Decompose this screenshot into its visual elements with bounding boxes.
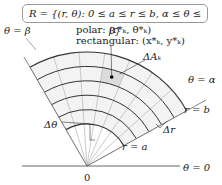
label-origin: 0 — [84, 172, 90, 183]
label-theta-zero: θ = 0 — [183, 162, 210, 173]
label-polar: polar: (r*ₖ, θ*ₖ) — [76, 24, 151, 35]
label-r-b: r = b — [184, 104, 210, 115]
label-theta-beta: θ = β — [4, 25, 31, 36]
label-r-a: r = a — [122, 141, 147, 152]
label-theta-alpha: θ = α — [188, 74, 216, 85]
label-delta-r: Δr — [163, 124, 175, 135]
leader-beta — [26, 38, 36, 50]
label-rectangular: rectangular: (x*ₖ, y*ₖ) — [76, 35, 185, 46]
label-delta-theta: Δθ — [44, 119, 57, 130]
set-definition: R = {(r, θ): 0 ≤ a ≤ r ≤ b, α ≤ θ ≤ β} — [22, 4, 208, 23]
polar-region-diagram: R = {(r, θ): 0 ≤ a ≤ r ≤ b, α ≤ θ ≤ β} θ… — [0, 0, 222, 185]
label-delta-a: ΔAₖ — [143, 51, 161, 62]
